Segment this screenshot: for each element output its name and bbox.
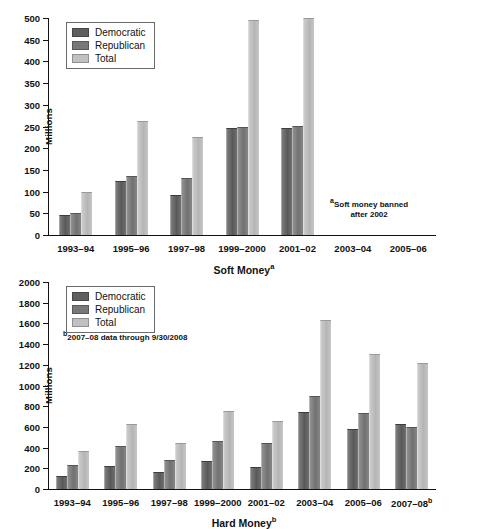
bar-democratic [281,128,292,235]
y-tick [43,18,48,19]
footnote: aSoft money bannedafter 2002 [330,197,408,220]
bar-total [81,192,92,235]
y-tick-label: 1600 [19,318,40,329]
y-tick-label: 500 [24,13,40,24]
bar-republican [406,427,417,489]
bar-republican [358,413,369,489]
bar-group [395,282,428,489]
bar-group [201,282,234,489]
x-tick-label: 1995–96 [113,243,150,254]
y-tick-label: 350 [24,78,40,89]
y-tick [43,427,48,428]
x-tick-label: 2007–08b [391,497,432,509]
bar-republican [309,396,320,489]
bar-total [303,18,314,235]
hard-money-chart: 0200400600800100012001400160018002000Mil… [0,272,488,528]
bar-republican [292,126,303,235]
tot-swatch-icon [72,54,89,63]
soft-money-chart: 050100150200250300350400450500Millions19… [0,0,488,282]
bar-group [226,18,259,235]
bar-total [320,320,331,489]
x-tick-label: 2005–06 [345,497,382,508]
x-tick-label: 1997–98 [151,497,188,508]
x-tick-label: 1999–2000 [194,497,242,508]
y-tick-label: 2000 [19,277,40,288]
y-tick [43,235,48,236]
bar-democratic [395,424,406,490]
y-tick [43,192,48,193]
legend: DemocraticRepublicanTotal [66,22,155,69]
y-tick [43,83,48,84]
legend-label-tot: Total [95,317,116,328]
y-tick-label: 600 [24,421,40,432]
y-tick-label: 300 [24,99,40,110]
bar-total [175,443,186,489]
legend-label-dem: Democratic [95,291,146,302]
y-tick [43,448,48,449]
x-axis-title: Hard Moneyb [0,515,488,529]
y-tick [43,489,48,490]
bar-group [347,282,380,489]
legend-label-rep: Republican [95,304,145,315]
legend-item-tot: Total [72,317,146,328]
y-tick [43,282,48,283]
bar-democratic [250,467,261,489]
legend-label-tot: Total [95,53,116,64]
tot-swatch-icon [72,318,89,327]
bar-republican [237,127,248,235]
x-tick-label: 2003–04 [334,243,371,254]
bar-democratic [347,429,358,489]
x-tick-label: 2005–06 [390,243,427,254]
bar-group [153,282,186,489]
y-tick-label: 450 [24,34,40,45]
y-tick [43,61,48,62]
bar-republican [115,446,126,489]
bar-democratic [298,412,309,489]
bar-republican [181,178,192,235]
bar-democratic [104,466,115,489]
y-axis-title: Millions [43,86,54,166]
x-tick-label: 1993–94 [54,497,91,508]
x-tick-label: 1999–2000 [218,243,266,254]
bar-group [281,18,314,235]
legend-label-rep: Republican [95,40,145,51]
bar-democratic [170,195,181,235]
y-tick [43,323,48,324]
rep-swatch-icon [72,41,89,50]
y-tick [43,40,48,41]
y-tick-label: 1000 [19,380,40,391]
bar-republican [212,441,223,489]
bar-total [369,354,380,489]
bar-republican [164,460,175,489]
y-tick-label: 400 [24,56,40,67]
bar-total [192,137,203,235]
bar-group [250,282,283,489]
y-tick [43,303,48,304]
bar-total [223,411,234,489]
x-axis [48,489,436,490]
bar-republican [70,213,81,235]
bar-total [272,421,283,489]
y-tick-label: 250 [24,121,40,132]
rep-swatch-icon [72,305,89,314]
bar-group [170,18,203,235]
bar-total [78,451,89,489]
legend-item-rep: Republican [72,40,146,51]
y-tick-label: 150 [24,164,40,175]
legend-item-rep: Republican [72,304,146,315]
y-tick-label: 200 [24,463,40,474]
legend-item-dem: Democratic [72,291,146,302]
bar-group [298,282,331,489]
y-tick-label: 0 [35,230,40,241]
bar-total [126,424,137,489]
y-tick [43,213,48,214]
x-tick-label: 1993–94 [57,243,94,254]
y-tick [43,468,48,469]
bar-democratic [153,472,164,489]
bar-total [417,363,428,489]
x-tick-label: 1997–98 [168,243,205,254]
x-axis [48,235,436,236]
bar-democratic [59,215,70,235]
y-tick-label: 800 [24,401,40,412]
y-tick [43,170,48,171]
